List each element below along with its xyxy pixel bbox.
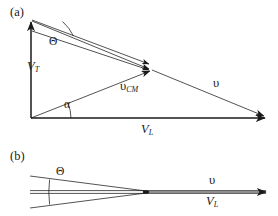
cone-edge-upper-b [30, 176, 146, 191]
v-label-b-text: υ [209, 173, 215, 187]
vector-diagram-svg [0, 0, 278, 216]
panel-b-tag: (b) [10, 150, 25, 163]
theta-label-a: Θ [49, 36, 57, 48]
vl-label: VL [141, 123, 153, 137]
v-label-text: υ [213, 76, 219, 90]
v-label: υ [213, 77, 219, 90]
vl-label-b-sub: L [214, 200, 219, 209]
alpha-label-a: α [64, 99, 70, 111]
panel-a-tag: (a) [10, 6, 24, 19]
vl-label-b-text: V [206, 194, 214, 208]
theta-label-b: Θ [56, 166, 64, 178]
cone-apex-b [143, 190, 149, 194]
vcm-vector [31, 71, 150, 118]
figure-root: (a) VT VL υCM υ Θ α (b) Θ υ VL [0, 0, 278, 216]
panel-b-graphics [30, 176, 266, 208]
theta-arc-b [49, 180, 50, 205]
vt-label: VT [27, 60, 39, 74]
v-label-b: υ [209, 174, 215, 187]
vl-label-text: V [141, 122, 149, 136]
vt-label-sub: T [35, 65, 40, 74]
cone-edge-lower-b [30, 193, 146, 208]
vl-label-sub: L [149, 128, 154, 137]
vl-label-b: VL [206, 195, 218, 209]
v-vector [152, 70, 264, 116]
vcm-label-sub: CM [126, 85, 138, 94]
vt-label-text: V [27, 59, 35, 73]
vcm-label: υCM [120, 80, 138, 94]
